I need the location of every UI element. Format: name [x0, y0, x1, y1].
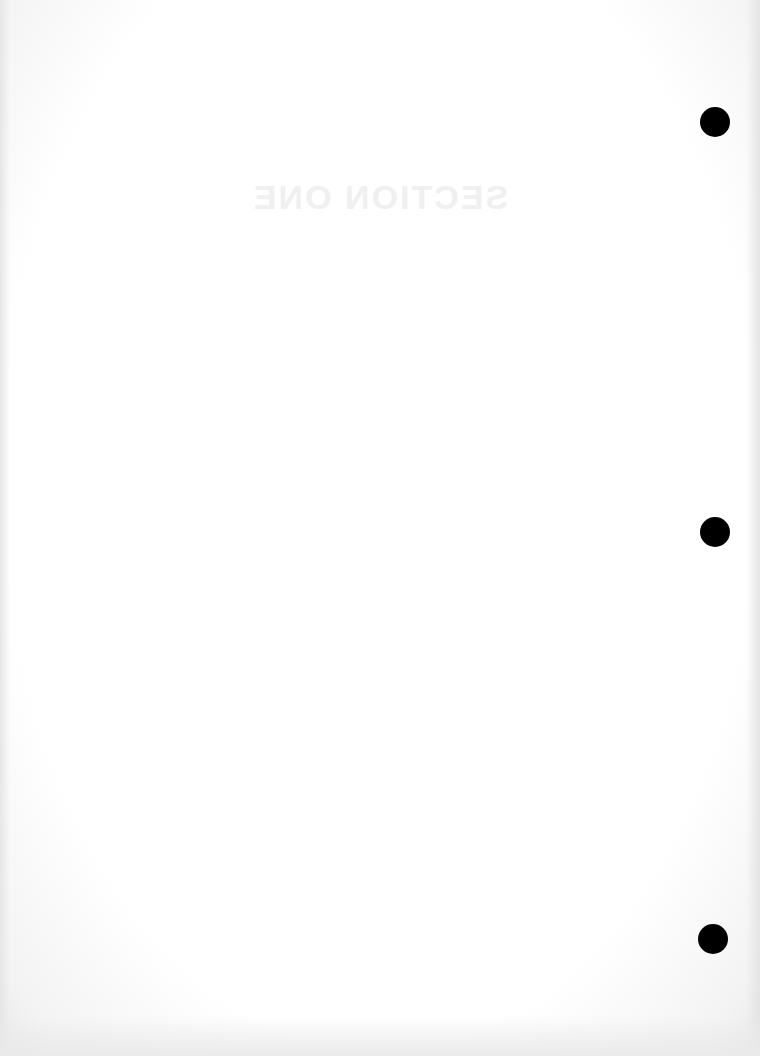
- bleed-through-heading: SECTION ONE: [0, 178, 760, 217]
- page-edge-shadow-bottom: [0, 1016, 760, 1056]
- page-edge-shadow-left: [0, 0, 10, 1056]
- punch-hole-top: [700, 107, 730, 137]
- punch-hole-bottom: [698, 924, 728, 954]
- page-edge-shadow-right: [746, 0, 760, 1056]
- punch-hole-middle: [700, 517, 730, 547]
- blank-page: SECTION ONE: [0, 0, 760, 1056]
